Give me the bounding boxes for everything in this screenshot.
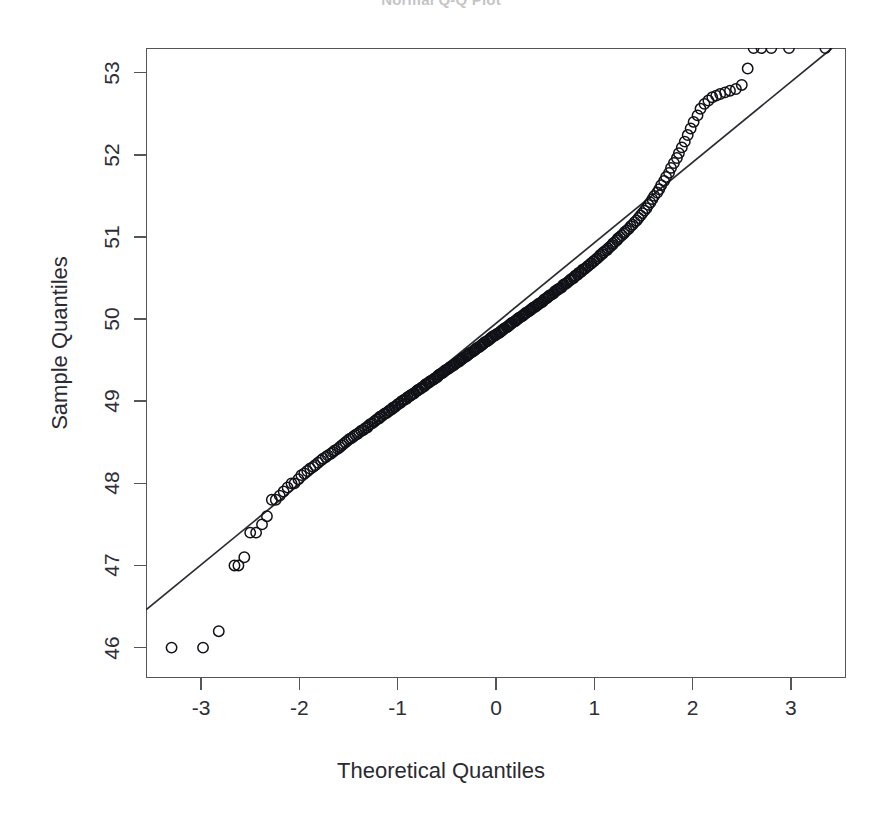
data-point [784,48,794,53]
y-tick-label: 51 [98,217,126,257]
data-points [166,48,830,653]
y-tick-mark [134,565,146,567]
qq-plot-figure: Normal Q-Q Plot -3-2-10123 4647484950515… [0,0,882,818]
x-tick-label: -1 [368,696,428,720]
y-tick-mark [134,72,146,74]
data-point [198,642,208,652]
data-point [756,48,766,53]
data-point [214,626,224,636]
x-tick-mark [397,678,399,690]
x-tick-mark [495,678,497,690]
y-tick-mark [134,647,146,649]
y-tick-label: 53 [98,53,126,93]
x-axis-label: Theoretical Quantiles [0,758,882,784]
data-point [262,511,272,521]
x-tick-mark [594,678,596,690]
plot-canvas [146,48,846,678]
qqline [146,48,832,610]
y-tick-label: 50 [98,299,126,339]
y-tick-mark [134,400,146,402]
y-tick-label: 48 [98,463,126,503]
y-tick-mark [134,154,146,156]
y-tick-mark [134,483,146,485]
data-point [820,48,830,53]
data-point [166,642,176,652]
x-tick-label: -3 [171,696,231,720]
y-tick-label: 49 [98,381,126,421]
reference-line [146,48,832,610]
data-point [683,130,693,140]
data-point [685,123,695,133]
y-tick-mark [134,318,146,320]
x-tick-mark [790,678,792,690]
y-tick-mark [134,236,146,238]
y-tick-label: 52 [98,135,126,175]
y-axis-label: Sample Quantiles [47,223,73,463]
x-tick-mark [299,678,301,690]
y-tick-label: 46 [98,628,126,668]
x-tick-label: 1 [564,696,624,720]
x-tick-label: 3 [761,696,821,720]
x-tick-label: 0 [466,696,526,720]
data-point [766,48,776,53]
data-point [742,63,752,73]
x-tick-mark [692,678,694,690]
x-tick-mark [200,678,202,690]
page-title: Normal Q-Q Plot [0,0,882,8]
y-tick-label: 47 [98,545,126,585]
x-tick-label: 2 [663,696,723,720]
x-tick-label: -2 [269,696,329,720]
data-point [239,552,249,562]
